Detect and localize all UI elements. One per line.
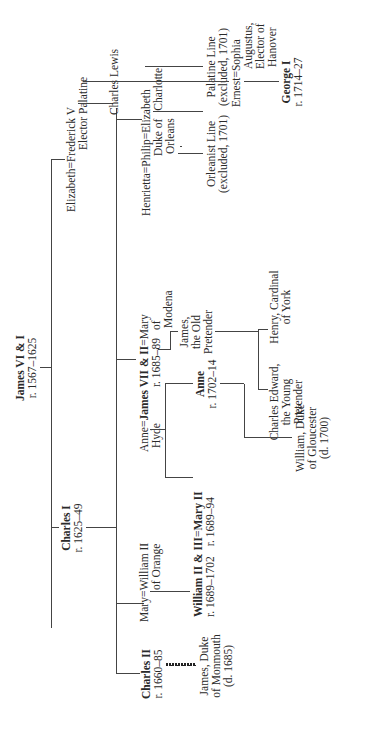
illegitimate-line: [166, 664, 196, 667]
connector: [51, 159, 65, 160]
connector: [116, 673, 140, 674]
node-mary-william-orange: Mary=William II of Orange: [138, 543, 162, 622]
connector: [244, 81, 279, 82]
connector: [40, 367, 51, 368]
connector: [178, 153, 203, 154]
node-anne: Anner. 1702–14: [194, 359, 218, 408]
connector: [170, 331, 178, 332]
node-william-iii-mary-ii: William II & III=Mary II r. 1689–1702r. …: [192, 491, 216, 617]
connector: [170, 332, 171, 350]
node-james-monmouth: James, Dukeof Monmouth(d. 1685): [198, 634, 234, 698]
node-henry-cardinal: Henry, Cardinalof York: [268, 270, 292, 343]
node-henrietta-philip-elizabeth: Henrietta=Philip=Elizabeth Duke ofCharlo…: [140, 68, 176, 216]
node-elizabeth-frederick: Elizabeth=Frederick V Elector Palatine: [65, 77, 89, 212]
family-tree-diagram: James VI & Ir. 1567–1625 Charles Ir. 162…: [0, 0, 374, 732]
node-charles-ii: Charles IIr. 1660–85: [140, 649, 164, 699]
node-charles-lewis: Charles Lewis: [108, 49, 120, 115]
connector: [165, 383, 193, 384]
connector: [258, 389, 268, 390]
connector: [78, 103, 103, 104]
node-george-i: George Ir. 1714–27: [280, 57, 304, 106]
connector: [150, 429, 165, 430]
connector: [258, 329, 268, 330]
connector: [220, 383, 244, 384]
connector: [150, 591, 190, 592]
connector: [215, 331, 258, 332]
connector: [165, 383, 166, 478]
connector: [116, 119, 142, 120]
connector: [158, 349, 170, 350]
node-charles-i: Charles Ir. 1625–49: [60, 503, 84, 552]
node-orleanist-line: Orleanist Line(excluded, 1701): [205, 115, 229, 193]
connector: [116, 108, 117, 604]
connector: [244, 384, 245, 438]
node-anne-james-mary: Anne=James VII & II=Mary Hyder. 1685–89o…: [138, 290, 174, 452]
connector: [145, 66, 203, 67]
node-william-gloucester: William, Dukeof Gloucester(d. 1700): [294, 404, 330, 472]
connector: [116, 359, 136, 360]
connector: [244, 437, 292, 438]
connector: [83, 81, 229, 82]
connector: [258, 330, 259, 390]
node-james-vi-i: James VI & Ir. 1567–1625: [14, 335, 38, 401]
node-palatine-line: Palatine Line(excluded, 1701): [205, 28, 229, 106]
connector: [51, 159, 52, 628]
connector: [86, 527, 116, 528]
connector: [153, 111, 203, 112]
connector: [51, 527, 59, 528]
connector: [180, 146, 182, 147]
node-ernest-augustus-sophia: Ernest=Sophia Augustus, Elector of Hanov…: [230, 23, 278, 107]
node-james-old-pretender: James,the OldPretender: [178, 310, 214, 354]
connector: [165, 477, 193, 478]
connector: [116, 604, 117, 674]
